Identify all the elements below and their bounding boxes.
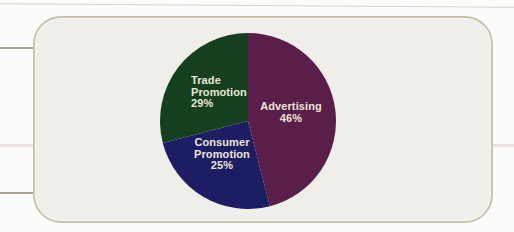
slice-name: Consumer Promotion [194, 136, 250, 160]
slice-name: Advertising [260, 100, 322, 112]
left-connector-line-bottom [0, 192, 35, 194]
scan-hairline [0, 3, 514, 8]
slice-percent: 29% [191, 97, 213, 109]
slice-percent: 46% [280, 112, 302, 124]
pie-label-consumer-promotion: Consumer Promotion 25% [184, 137, 260, 172]
pie-label-trade-promotion: Trade Promotion 29% [191, 75, 253, 110]
slice-name: Trade Promotion [191, 74, 247, 98]
pie-label-advertising: Advertising 46% [253, 101, 329, 124]
slice-percent: 25% [211, 159, 233, 171]
left-connector-line-top [0, 47, 35, 49]
